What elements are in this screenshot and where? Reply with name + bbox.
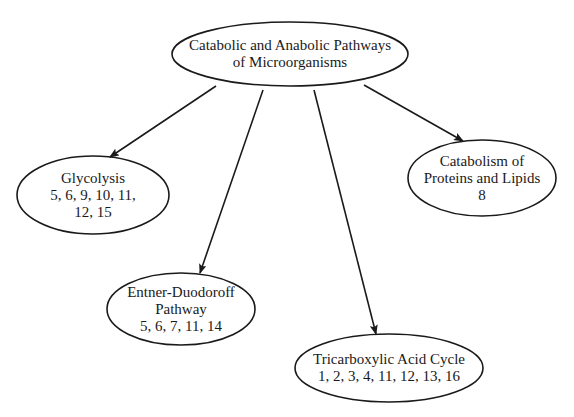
catabolism-title-1: Catabolism of [424, 153, 541, 170]
tca-refs: 1, 2, 3, 4, 11, 12, 13, 16 [313, 368, 465, 385]
arrow-root-to-entner-duodoroff [200, 90, 263, 273]
arrow-root-to-tricarboxylic-acid-cycle [314, 90, 376, 334]
root-label-line-1: Catabolic and Anabolic Pathways [189, 37, 391, 54]
root-node-label: Catabolic and Anabolic Pathways of Micro… [189, 37, 391, 71]
glycolysis-refs-1: 5, 6, 9, 10, 11, [50, 187, 136, 204]
glycolysis-node-label: Glycolysis 5, 6, 9, 10, 11, 12, 15 [50, 170, 136, 221]
arrow-root-to-catabolism-proteins-lipids [364, 85, 463, 141]
glycolysis-title: Glycolysis [50, 170, 136, 187]
tca-title: Tricarboxylic Acid Cycle [313, 351, 465, 368]
arrow-root-to-glycolysis [110, 86, 216, 157]
catabolism-refs: 8 [424, 187, 541, 204]
entner-duodoroff-refs: 5, 6, 7, 11, 14 [127, 318, 235, 335]
entner-duodoroff-node-label: Entner-Duodoroff Pathway 5, 6, 7, 11, 14 [127, 284, 235, 335]
entner-duodoroff-title-2: Pathway [127, 301, 235, 318]
catabolism-title-2: Proteins and Lipids [424, 170, 541, 187]
entner-duodoroff-title-1: Entner-Duodoroff [127, 284, 235, 301]
catabolism-node-label: Catabolism of Proteins and Lipids 8 [424, 153, 541, 204]
tca-node-label: Tricarboxylic Acid Cycle 1, 2, 3, 4, 11,… [313, 351, 465, 385]
pathway-diagram: Catabolic and Anabolic Pathways of Micro… [0, 0, 574, 417]
root-label-line-2: of Microorganisms [189, 54, 391, 71]
glycolysis-refs-2: 12, 15 [50, 204, 136, 221]
